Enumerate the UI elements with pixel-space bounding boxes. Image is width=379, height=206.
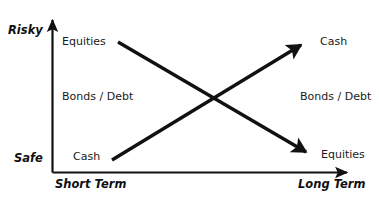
label-equities-short-term: Equities <box>62 35 106 48</box>
x-axis-right-label: Long Term <box>298 178 365 191</box>
diagram-drawing <box>0 0 379 206</box>
label-cash-long-term: Cash <box>320 35 347 48</box>
diagram-canvas: Risky Safe Short Term Long Term Equities… <box>0 0 379 206</box>
x-axis-left-label: Short Term <box>55 178 126 191</box>
label-equities-long-term: Equities <box>321 148 365 161</box>
y-axis-bottom-label: Safe <box>14 152 43 165</box>
y-axis-top-label: Risky <box>8 24 43 37</box>
cash-trend-arrow <box>112 45 301 160</box>
label-cash-short-term: Cash <box>73 150 100 163</box>
label-bonds-short-term: Bonds / Debt <box>62 90 133 103</box>
label-bonds-long-term: Bonds / Debt <box>300 90 371 103</box>
